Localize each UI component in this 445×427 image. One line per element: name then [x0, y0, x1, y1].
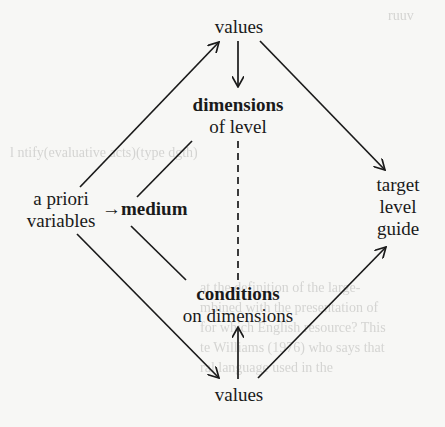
node-medium-label: medium — [121, 198, 188, 219]
node-a-priori-variables: a priori variables — [18, 188, 104, 232]
arrow-to-medium-icon: → — [102, 198, 121, 219]
node-dimensions-line1: dimensions — [178, 94, 298, 116]
node-values-top: values — [208, 16, 270, 38]
node-dimensions-of-level: dimensions of level — [178, 94, 298, 138]
node-target-line3: guide — [368, 218, 428, 240]
edge-medium-to-conditions — [131, 226, 186, 280]
node-target-line1: target — [368, 174, 428, 196]
node-values-top-label: values — [208, 16, 270, 38]
edge-medium-to-dimensions — [137, 141, 192, 197]
node-a-priori-line2: variables — [18, 210, 104, 232]
node-conditions-on-dimensions: conditions on dimensions — [168, 283, 308, 327]
node-dimensions-line2: of level — [178, 116, 298, 138]
node-target-level-guide: target level guide — [368, 174, 428, 240]
node-a-priori-line1: a priori — [18, 188, 104, 210]
node-conditions-line1: conditions — [168, 283, 308, 305]
node-conditions-line2: on dimensions — [168, 305, 308, 327]
node-values-bottom: values — [208, 384, 270, 406]
node-medium: →medium — [102, 198, 188, 220]
node-target-line2: level — [368, 196, 428, 218]
node-values-bottom-label: values — [208, 384, 270, 406]
